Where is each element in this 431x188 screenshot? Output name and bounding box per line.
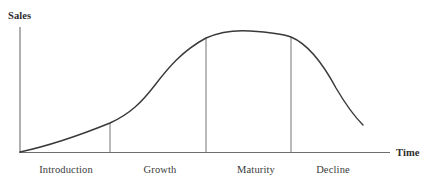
sales-curve	[20, 31, 363, 152]
stage-label-maturity: Maturity	[237, 164, 276, 175]
chart-canvas: Sales Time Introduction Growth Maturity …	[0, 0, 431, 188]
y-axis-title: Sales	[8, 10, 31, 21]
product-life-cycle-chart: Sales Time Introduction Growth Maturity …	[0, 0, 431, 188]
stage-label-growth: Growth	[144, 164, 178, 175]
stage-label-introduction: Introduction	[39, 164, 93, 175]
stage-label-decline: Decline	[316, 164, 350, 175]
x-axis-title: Time	[396, 147, 420, 158]
